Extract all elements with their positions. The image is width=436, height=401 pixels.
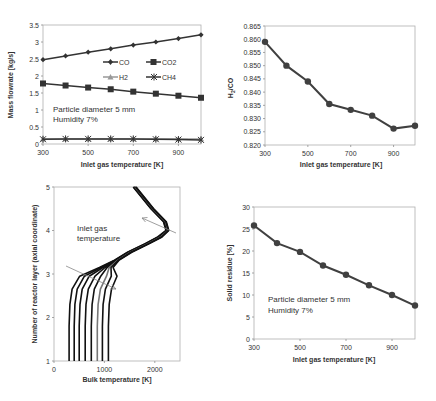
diamond-marker-icon (176, 36, 181, 41)
y-tick-label: 0.835 (243, 102, 261, 109)
square-marker-icon (85, 85, 91, 91)
x-axis-label: Inlet gas temperature [K] (81, 161, 163, 169)
circle-marker-icon (320, 262, 326, 268)
chart-bulk-temperature-profile: 12345 010002000 Inlet gas temperature Nu… (31, 184, 180, 385)
y-tick-label: 0 (35, 141, 39, 148)
y-tick-labels: 0.8200.8250.8300.8350.8400.8450.8500.855… (243, 23, 265, 149)
x-axis-label: Inlet gas temperature [K] (293, 356, 375, 364)
circle-marker-icon (262, 39, 268, 45)
x-tick-label: 2000 (147, 366, 163, 373)
circle-marker-icon (297, 249, 303, 255)
y-tick-label: 0.865 (243, 23, 261, 30)
plot-frame (54, 187, 180, 361)
y-tick-label: 25 (242, 226, 250, 233)
square-marker-icon (63, 83, 69, 89)
legend-item-co: CO (103, 59, 130, 66)
circle-marker-icon (389, 292, 395, 298)
x-tick-label: 900 (388, 150, 400, 157)
y-tick-label: 10 (242, 292, 250, 299)
x-tick-label: 700 (127, 149, 139, 156)
legend-label: CO (119, 59, 130, 66)
annotation-humidity: Humidity 7% (268, 306, 313, 315)
square-marker-icon (175, 93, 181, 99)
y-tick-label: 0.855 (243, 49, 261, 56)
y-tick-label: 0.840 (243, 89, 261, 96)
plot-frame (254, 207, 415, 339)
series-lines (40, 32, 204, 143)
y-tick-label: 2 (35, 73, 39, 80)
square-marker-icon (151, 59, 157, 65)
y-tick-label: 0.5 (29, 124, 39, 131)
legend: CO CO2 H2 CH4 (103, 59, 177, 81)
x-tick-label: 700 (340, 344, 352, 351)
y-tick-label: 30 (242, 204, 250, 211)
y-tick-label: 2.5 (29, 56, 39, 63)
y-axis-label: H2/CO (227, 77, 236, 98)
y-tick-label: 3 (35, 39, 39, 46)
legend-item-h2: H2 (103, 74, 128, 81)
legend-item-co2: CO2 (146, 59, 177, 66)
y-tick-label: 3.5 (29, 22, 39, 29)
y-tick-label: 0.825 (243, 128, 261, 135)
legend-label: CO2 (162, 59, 177, 66)
y-tick-label: 1 (35, 107, 39, 114)
chart-solid-residue: 051015202530 300500700900 Solid residue … (226, 204, 418, 365)
legend-label: H2 (119, 74, 128, 81)
x-tick-label: 300 (259, 150, 271, 157)
circle-marker-icon (283, 62, 289, 68)
arrow-inlet-increase-upper (142, 218, 176, 234)
y-tick-label: 1 (46, 358, 50, 365)
x-tick-label: 500 (294, 344, 306, 351)
series-lines (262, 39, 418, 132)
x-tick-label: 0 (52, 366, 56, 373)
diamond-marker-icon (63, 53, 68, 58)
circle-marker-icon (369, 112, 375, 118)
annotation-temperature: temperature (77, 234, 121, 243)
square-marker-icon (153, 91, 159, 97)
y-tick-label: 0.860 (243, 36, 261, 43)
y-tick-label: 1.5 (29, 90, 39, 97)
y-tick-labels: 12345 (46, 184, 54, 365)
x-tick-label: 1000 (97, 366, 113, 373)
x-tick-label: 300 (37, 149, 49, 156)
y-tick-label: 0 (246, 336, 250, 343)
x-tick-label: 900 (386, 344, 398, 351)
y-tick-label: 0.830 (243, 115, 261, 122)
square-marker-icon (40, 80, 46, 86)
circle-marker-icon (326, 101, 332, 107)
x-tick-labels: 300500700900 (248, 339, 398, 351)
x-tick-label: 300 (248, 344, 260, 351)
annotation-particle-diameter: Particle diameter 5 mm (268, 295, 351, 304)
circle-marker-icon (251, 222, 257, 228)
legend-item-ch4: CH4 (146, 74, 176, 82)
annotation-particle-diameter: Particle diameter 5 mm (53, 105, 136, 114)
diamond-marker-icon (108, 46, 113, 51)
y-tick-label: 5 (246, 314, 250, 321)
x-axis-label: Bulk temperature [K] (82, 376, 151, 384)
diamond-marker-icon (40, 57, 45, 62)
circle-marker-icon (305, 78, 311, 84)
x-tick-label: 700 (345, 150, 357, 157)
circle-marker-icon (412, 122, 418, 128)
figure: 00.511.522.533.5 300500700900 Mass flowr… (0, 0, 436, 401)
square-marker-icon (198, 95, 204, 101)
x-axis-label: Inlet gas temperature [K] (300, 161, 382, 169)
series-line (265, 42, 415, 129)
y-tick-label: 0.845 (243, 75, 261, 82)
square-marker-icon (130, 89, 136, 95)
circle-marker-icon (366, 282, 372, 288)
y-tick-label: 3 (46, 271, 50, 278)
x-tick-labels: 300500700900 (37, 144, 184, 156)
diamond-marker-icon (108, 59, 113, 65)
y-tick-label: 15 (242, 270, 250, 277)
y-axis-label: Solid residue [%] (226, 245, 234, 302)
diamond-marker-icon (131, 42, 136, 47)
circle-marker-icon (348, 107, 354, 113)
temperature-profile-curve (74, 187, 166, 361)
square-marker-icon (108, 86, 114, 92)
x-tick-label: 500 (82, 149, 94, 156)
diamond-marker-icon (86, 50, 91, 55)
annotation-inlet-gas: Inlet gas (77, 224, 107, 233)
circle-marker-icon (412, 302, 418, 308)
legend-label: CH4 (162, 74, 176, 81)
